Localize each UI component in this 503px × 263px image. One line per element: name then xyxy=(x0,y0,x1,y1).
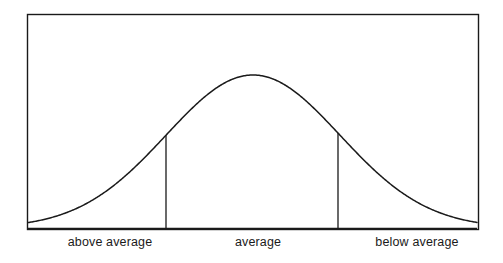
figure-background xyxy=(0,0,503,263)
normal-distribution-figure xyxy=(0,0,503,263)
